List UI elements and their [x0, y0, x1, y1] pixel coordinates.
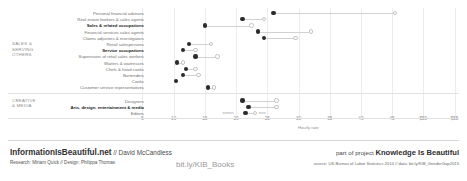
- legend-label-women: women: [222, 110, 233, 117]
- women-dot[interactable]: [184, 67, 188, 71]
- men-dot[interactable]: [274, 98, 278, 102]
- footer-source: source: US Bureau of Labor Statistics 20…: [314, 161, 460, 166]
- group-separator: [8, 118, 459, 119]
- footer-brand: InformationIsBeautiful.net // David McCa…: [10, 148, 172, 157]
- men-dot[interactable]: [212, 85, 216, 89]
- women-dot[interactable]: [187, 42, 191, 46]
- women-dot[interactable]: [243, 111, 247, 115]
- footer-project-prefix: part of project: [336, 149, 376, 156]
- women-dot[interactable]: [206, 85, 210, 89]
- footer-brand-name: InformationIsBeautiful.net: [10, 148, 111, 157]
- row-label: Editors: [40, 110, 144, 117]
- men-dot[interactable]: [196, 73, 200, 77]
- women-dot[interactable]: [174, 79, 178, 83]
- women-dot[interactable]: [246, 105, 250, 109]
- gap-connector: [205, 26, 252, 27]
- gap-connector: [264, 38, 295, 39]
- women-dot[interactable]: [240, 17, 244, 21]
- men-dot[interactable]: [253, 111, 257, 115]
- men-dot[interactable]: [274, 105, 278, 109]
- women-dot[interactable]: [256, 29, 260, 33]
- men-dot[interactable]: [309, 29, 313, 33]
- chart-row: Editorswomenmen: [0, 110, 467, 117]
- gender-pay-gap-chart: Hourly rate 51015202530354045$50$55 SALE…: [0, 0, 467, 181]
- x-axis-title: Hourly rate: [298, 125, 318, 130]
- gap-connector: [189, 44, 211, 45]
- group-separator: [8, 93, 459, 94]
- footer-book-link[interactable]: bit.ly/KIB_Books: [176, 160, 234, 169]
- men-dot[interactable]: [249, 23, 253, 27]
- men-dot[interactable]: [209, 42, 213, 46]
- footer-credit: Research: Miriam Quick // Design: Philip…: [10, 160, 115, 165]
- men-dot[interactable]: [193, 48, 197, 52]
- footer-brand-separator: //: [111, 149, 118, 156]
- women-dot[interactable]: [203, 23, 207, 27]
- footer-project-name: Knowledge Is Beautiful: [375, 148, 459, 157]
- women-dot[interactable]: [181, 48, 185, 52]
- men-dot[interactable]: [181, 60, 185, 64]
- men-dot[interactable]: [193, 67, 197, 71]
- women-dot[interactable]: [193, 54, 197, 58]
- footer-project: part of project Knowledge Is Beautiful: [336, 148, 459, 157]
- footer-divider: [8, 140, 459, 141]
- women-dot[interactable]: [240, 98, 244, 102]
- gap-connector: [196, 57, 218, 58]
- men-dot[interactable]: [293, 36, 297, 40]
- women-dot[interactable]: [175, 60, 179, 64]
- chart-row: Customer service representatives: [0, 84, 467, 91]
- men-dot[interactable]: [215, 54, 219, 58]
- gap-connector: [242, 19, 264, 20]
- women-dot[interactable]: [181, 73, 185, 77]
- women-dot[interactable]: [262, 36, 266, 40]
- footer-brand-author: David McCandless: [119, 149, 172, 156]
- men-dot[interactable]: [262, 17, 266, 21]
- women-dot[interactable]: [271, 11, 275, 15]
- gap-connector: [258, 32, 311, 33]
- row-label: Customer service representatives: [40, 84, 144, 91]
- gap-connector: [242, 101, 276, 102]
- gap-connector: [274, 13, 396, 14]
- gap-connector: [249, 107, 277, 108]
- legend-label-men: men: [259, 110, 266, 117]
- men-dot[interactable]: [393, 11, 397, 15]
